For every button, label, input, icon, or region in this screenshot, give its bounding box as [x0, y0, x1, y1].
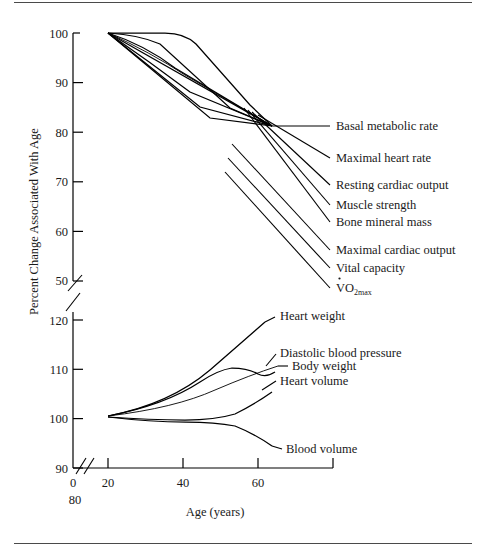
label-resting-cardiac-output: Resting cardiac output	[336, 178, 449, 192]
curve-blood-volume	[108, 417, 272, 446]
lower-tick-100: 100	[49, 412, 68, 426]
label-blood-volume: Blood volume	[286, 442, 358, 456]
label-maximal-heart-rate: Maximal heart rate	[336, 151, 432, 165]
upper-panel-leaders	[225, 108, 330, 288]
label-vo2max-o: O	[345, 281, 354, 295]
leader-vo2max	[225, 172, 330, 288]
curve-diastolic-blood-pressure	[108, 368, 275, 416]
chart-canvas: Percent Change Associated With Age 100 9…	[0, 0, 486, 554]
label-diastolic-blood-pressure: Diastolic blood pressure	[280, 346, 402, 360]
x-tick-80: 80	[69, 493, 82, 507]
label-body-weight: Body weight	[292, 359, 357, 373]
figure-root: Percent Change Associated With Age 100 9…	[0, 0, 486, 554]
label-maximal-cardiac-output: Maximal cardiac output	[336, 243, 456, 257]
label-bone-mineral-mass: Bone mineral mass	[336, 215, 432, 229]
x-axis: 0 20 40 60 80 Age (years)	[69, 458, 333, 519]
upper-tick-60: 60	[56, 225, 69, 239]
lower-panel-labels: Heart weight Diastolic blood pressure Bo…	[280, 309, 402, 456]
vo2max-overdot-icon	[338, 277, 340, 279]
upper-panel-axis: 100 90 80 70 60 50	[49, 27, 83, 289]
x-tick-60: 60	[252, 476, 265, 490]
label-basal-metabolic-rate: Basal metabolic rate	[336, 119, 438, 133]
leader-blood-volume	[272, 446, 282, 449]
label-vital-capacity: Vital capacity	[336, 261, 406, 275]
label-vo2max: VO2max	[336, 277, 372, 297]
x-tick-20: 20	[102, 476, 115, 490]
curve-body-weight	[108, 366, 278, 416]
label-vo2max-v: V	[336, 281, 345, 295]
y-axis-title: Percent Change Associated With Age	[27, 128, 41, 315]
leader-vital-capacity	[228, 158, 330, 268]
upper-tick-70: 70	[56, 175, 69, 189]
upper-tick-90: 90	[56, 76, 69, 90]
lower-panel-curves	[108, 322, 278, 446]
leader-muscle-strength	[248, 110, 330, 205]
leader-bone-mineral-mass	[244, 108, 330, 222]
lower-panel-axis: 120 110 100 90	[49, 312, 83, 476]
lower-tick-110: 110	[50, 363, 68, 377]
label-heart-volume: Heart volume	[280, 374, 349, 388]
upper-tick-50: 50	[56, 274, 69, 288]
leader-diastolic-blood-pressure	[266, 354, 276, 366]
label-heart-weight: Heart weight	[280, 309, 345, 323]
upper-tick-80: 80	[56, 126, 69, 140]
curve-heart-volume	[108, 392, 272, 420]
leader-heart-volume	[262, 381, 276, 390]
leader-heart-weight	[265, 317, 275, 322]
label-muscle-strength: Muscle strength	[336, 198, 417, 212]
x-tick-40: 40	[177, 476, 190, 490]
label-vo2max-sub: 2max	[354, 288, 372, 297]
leader-resting-cardiac-output	[252, 112, 330, 185]
svg-text:VO2max: VO2max	[336, 281, 372, 297]
x-axis-title: Age (years)	[186, 505, 245, 519]
upper-panel-labels: Basal metabolic rate Maximal heart rate …	[336, 119, 456, 297]
upper-tick-100: 100	[49, 27, 68, 41]
x-tick-0: 0	[70, 476, 76, 490]
lower-tick-120: 120	[49, 314, 68, 328]
lower-tick-90: 90	[56, 462, 69, 476]
